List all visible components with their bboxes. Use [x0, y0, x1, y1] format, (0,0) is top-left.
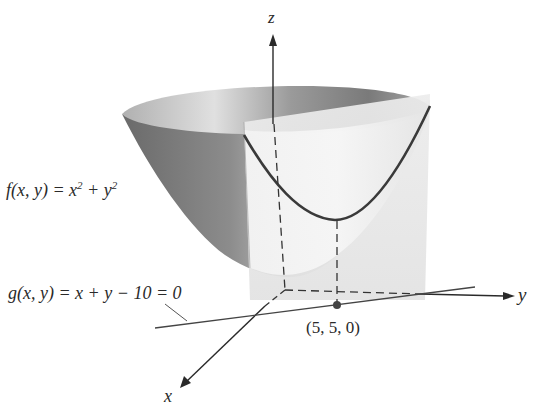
- x-axis: [186, 306, 265, 382]
- point-marker: [333, 301, 341, 309]
- y-axis-arrowhead: [503, 292, 515, 300]
- x-axis-arrowhead: [180, 376, 191, 388]
- point-label: (5, 5, 0): [306, 318, 360, 338]
- x-axis-label: x: [164, 386, 172, 407]
- constraint-label: g(x, y) = x + y − 10 = 0: [8, 283, 182, 304]
- y-axis-label: y: [518, 284, 526, 306]
- diagram-canvas: [0, 0, 538, 416]
- constraint-leader: [165, 304, 187, 321]
- surface-label: f(x, y) = x2 + y2: [6, 180, 117, 201]
- z-axis-arrowhead: [269, 34, 277, 46]
- y-axis: [420, 294, 505, 296]
- z-axis-label: z: [268, 8, 275, 28]
